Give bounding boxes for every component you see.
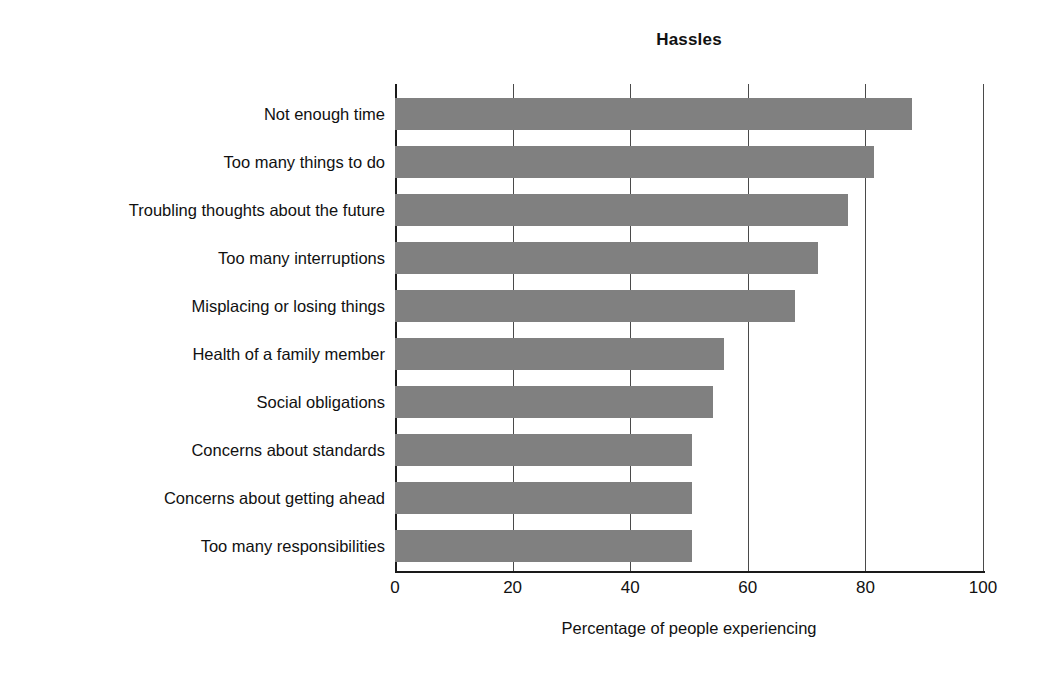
category-label: Too many responsibilities: [45, 530, 385, 562]
bar: [395, 434, 692, 466]
category-label: Misplacing or losing things: [45, 290, 385, 322]
chart-container: Hassles Not enough timeToo many things t…: [0, 0, 1048, 681]
x-tick-label: 80: [835, 578, 895, 598]
x-tick-label: 20: [483, 578, 543, 598]
bar: [395, 338, 724, 370]
x-tick-label: 40: [600, 578, 660, 598]
bar: [395, 290, 795, 322]
x-tick-label: 100: [953, 578, 1013, 598]
x-tick-label: 60: [718, 578, 778, 598]
gridline-100: [983, 84, 984, 572]
bar: [395, 194, 848, 226]
bar: [395, 386, 713, 418]
chart-title: Hassles: [395, 30, 983, 50]
bar: [395, 530, 692, 562]
category-label: Too many things to do: [45, 146, 385, 178]
category-label: Social obligations: [45, 386, 385, 418]
category-label: Concerns about getting ahead: [45, 482, 385, 514]
category-label: Not enough time: [45, 98, 385, 130]
x-axis-line: [395, 571, 985, 573]
bar: [395, 146, 874, 178]
x-tick-label: 0: [365, 578, 425, 598]
category-label: Troubling thoughts about the future: [45, 194, 385, 226]
category-label: Health of a family member: [45, 338, 385, 370]
category-label: Concerns about standards: [45, 434, 385, 466]
x-axis-title: Percentage of people experiencing: [395, 619, 983, 638]
category-label: Too many interruptions: [45, 242, 385, 274]
bar: [395, 242, 818, 274]
bar: [395, 98, 912, 130]
bar: [395, 482, 692, 514]
